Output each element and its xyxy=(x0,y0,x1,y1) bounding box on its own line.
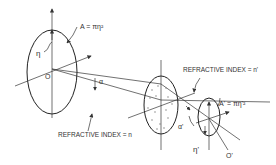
area-prime-label: A' = πη'² xyxy=(219,100,246,108)
upper-ray xyxy=(52,69,161,84)
alpha-prime-leader xyxy=(189,116,194,126)
etendue-diagram: A = πη² η O α REFRACTIVE INDEX = n REFRA… xyxy=(0,0,276,165)
lens-dot-pattern xyxy=(147,85,172,129)
alpha-prime-arrow xyxy=(186,106,190,110)
origin-prime-label: O' xyxy=(226,152,233,159)
index-prime-leader xyxy=(194,78,200,92)
eta-leader xyxy=(44,42,52,52)
area-label: A = πη² xyxy=(80,23,104,31)
refractive-index-object-label: REFRACTIVE INDEX = n xyxy=(58,131,132,138)
object-transverse-axis xyxy=(15,56,91,86)
eta-prime-label: η' xyxy=(193,145,199,154)
eta-label: η xyxy=(36,49,40,58)
refractive-index-image-label: REFRACTIVE INDEX = n' xyxy=(183,66,258,73)
lens xyxy=(128,60,195,150)
image-aperture xyxy=(186,78,229,150)
lens-transverse-axis xyxy=(128,93,195,118)
index-leader xyxy=(88,114,92,131)
image-optic-axis xyxy=(209,119,228,150)
alpha-prime-label: α' xyxy=(178,123,183,130)
origin-label: O xyxy=(45,73,51,80)
image-transverse-axis xyxy=(196,112,229,123)
alpha-label: α xyxy=(99,78,103,85)
